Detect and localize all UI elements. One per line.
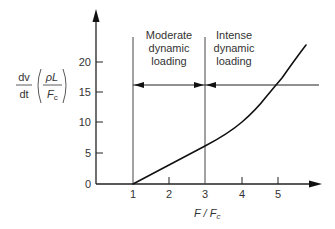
svg-text:dv: dv: [18, 71, 30, 83]
svg-text:dt: dt: [19, 88, 28, 100]
y-tick-labels: 0 5 10 15 20: [79, 56, 91, 190]
svg-text:ρL: ρL: [45, 71, 58, 83]
svg-text:Moderate: Moderate: [146, 29, 192, 41]
x-tick-label: 4: [239, 188, 245, 200]
arrow-right-icon: [194, 82, 204, 88]
y-tick-label: 5: [85, 147, 91, 159]
svg-text:loading: loading: [216, 55, 251, 67]
svg-text:dynamic: dynamic: [149, 42, 190, 54]
chart: 0 5 10 15 20 1 2 3 4 5 F / Fc Moderate d…: [0, 0, 335, 229]
arrow-left-icon: [134, 82, 144, 88]
y-tick-label: 10: [79, 116, 91, 128]
y-tick-label: 0: [85, 178, 91, 190]
x-axis-arrow-icon: [309, 181, 322, 188]
svg-text:loading: loading: [151, 55, 186, 67]
y-axis-label: dv dt ρL Fc: [16, 69, 66, 103]
x-axis-label: F / Fc: [194, 207, 220, 221]
svg-text:Fc: Fc: [47, 88, 58, 102]
x-tick-label: 5: [275, 188, 281, 200]
x-tick-label: 3: [202, 188, 208, 200]
y-axis-arrow-icon: [93, 9, 100, 22]
y-tick-label: 15: [79, 86, 91, 98]
x-ticks: [169, 177, 278, 184]
region-label-moderate: Moderate dynamic loading: [146, 29, 192, 67]
y-ticks: [96, 62, 103, 153]
x-tick-label: 1: [130, 188, 136, 200]
y-tick-label: 20: [79, 56, 91, 68]
arrow-left-icon: [206, 82, 216, 88]
x-tick-label: 2: [166, 188, 172, 200]
svg-text:dynamic: dynamic: [214, 42, 255, 54]
region-label-intense: Intense dynamic loading: [214, 29, 255, 67]
x-tick-labels: 1 2 3 4 5: [130, 188, 281, 200]
svg-text:Intense: Intense: [216, 29, 252, 41]
